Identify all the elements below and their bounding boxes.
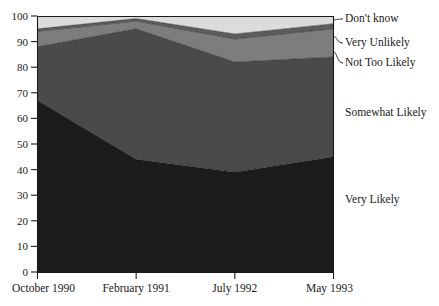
x-tick-label-0: October 1990 xyxy=(12,282,75,294)
x-tick-label-2: July 1992 xyxy=(212,282,257,295)
y-tick-label-60: 60 xyxy=(17,112,29,124)
y-tick-label-10: 10 xyxy=(17,240,29,252)
x-tick-label-3: May 1993 xyxy=(306,282,353,295)
x-tick-label-1: February 1991 xyxy=(102,282,170,295)
y-tick-label-50: 50 xyxy=(17,138,29,150)
legend-label-very-likely: Very Likely xyxy=(345,193,400,206)
y-tick-label-40: 40 xyxy=(17,164,29,176)
legend-label-very-unlikely: Very Unlikely xyxy=(345,36,410,49)
area-bands xyxy=(38,16,334,272)
legend-label-not-too-likely: Not Too Likely xyxy=(345,56,416,69)
y-tick-label-30: 30 xyxy=(17,189,29,201)
legend-label-don-t-know: Don't know xyxy=(345,12,399,24)
y-tick-label-80: 80 xyxy=(17,61,29,73)
y-tick-label-90: 90 xyxy=(17,36,29,48)
y-tick-label-20: 20 xyxy=(17,215,29,227)
chart-canvas: 1009080706050403020100 October 1990Febru… xyxy=(0,0,439,306)
y-tick-label-70: 70 xyxy=(17,87,29,99)
y-tick-label-0: 0 xyxy=(23,266,29,278)
legend-label-somewhat-likely: Somewhat Likely xyxy=(345,106,427,119)
y-tick-label-100: 100 xyxy=(12,10,29,22)
stacked-area-chart: 1009080706050403020100 October 1990Febru… xyxy=(0,0,439,306)
